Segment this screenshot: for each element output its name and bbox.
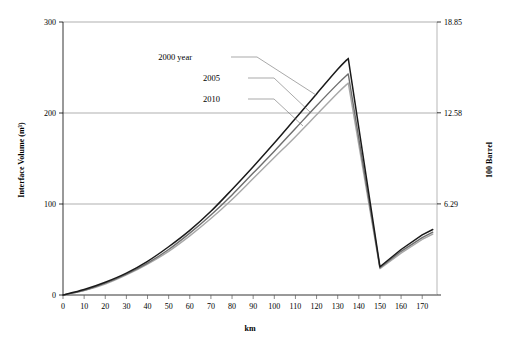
x-tick-label-50: 50 bbox=[165, 302, 173, 311]
x-tick-label-30: 30 bbox=[122, 302, 130, 311]
annotation-label-2005: 2005 bbox=[203, 73, 220, 83]
x-tick-label-90: 90 bbox=[249, 302, 257, 311]
x-tick-label-20: 20 bbox=[101, 302, 109, 311]
y2-tick-label-2: 12.58 bbox=[444, 109, 462, 118]
y2-tick-label-1: 6.29 bbox=[444, 200, 458, 209]
x-tick-label-0: 0 bbox=[61, 302, 65, 311]
x-tick-label-140: 140 bbox=[353, 302, 365, 311]
x-tick-label-40: 40 bbox=[144, 302, 152, 311]
y-tick-label-300: 300 bbox=[44, 18, 56, 27]
x-tick-label-120: 120 bbox=[311, 302, 323, 311]
x-tick-label-80: 80 bbox=[228, 302, 236, 311]
x-tick-label-100: 100 bbox=[268, 302, 280, 311]
x-tick-label-70: 70 bbox=[207, 302, 215, 311]
y2-axis-title: 100 Barrel bbox=[485, 141, 494, 178]
y-tick-label-200: 200 bbox=[44, 109, 56, 118]
y-axis-title: Interface Volume (m³) bbox=[17, 122, 26, 198]
interface-volume-line-chart: 0102030405060708090100110120130140150160… bbox=[0, 0, 511, 340]
x-tick-label-170: 170 bbox=[416, 302, 428, 311]
x-tick-label-110: 110 bbox=[290, 302, 302, 311]
chart-container: 0102030405060708090100110120130140150160… bbox=[0, 0, 511, 340]
annotation-label-2000-year: 2000 year bbox=[158, 52, 192, 62]
x-tick-label-160: 160 bbox=[395, 302, 407, 311]
y-tick-label-0: 0 bbox=[52, 291, 56, 300]
x-tick-label-60: 60 bbox=[186, 302, 194, 311]
x-axis-title: km bbox=[244, 324, 255, 333]
x-tick-label-130: 130 bbox=[332, 302, 344, 311]
y-tick-label-100: 100 bbox=[44, 200, 56, 209]
x-tick-label-10: 10 bbox=[80, 302, 88, 311]
y2-tick-label-3: 18.85 bbox=[444, 18, 462, 27]
x-tick-label-150: 150 bbox=[374, 302, 386, 311]
annotation-label-2010: 2010 bbox=[203, 94, 220, 104]
